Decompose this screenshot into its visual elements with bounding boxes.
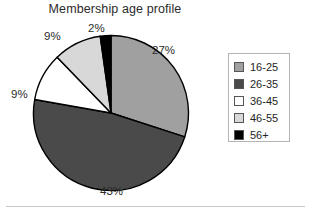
legend-label: 36-45 bbox=[250, 95, 278, 107]
legend-item-56-plus[interactable]: 56+ bbox=[234, 127, 289, 142]
legend-swatch-icon-16-25 bbox=[234, 62, 244, 72]
legend-label: 56+ bbox=[250, 129, 269, 141]
legend-label: 46-55 bbox=[250, 112, 278, 124]
slice-label-16-25: 27% bbox=[152, 44, 175, 57]
slice-label-26-35: 43% bbox=[100, 185, 123, 198]
legend-label: 26-35 bbox=[250, 78, 278, 90]
legend-item-16-25[interactable]: 16-25 bbox=[234, 59, 289, 74]
slice-label-46-55: 9% bbox=[44, 30, 61, 43]
legend-swatch-icon-26-35 bbox=[234, 79, 244, 89]
legend-label: 16-25 bbox=[250, 61, 278, 73]
legend-item-36-45[interactable]: 36-45 bbox=[234, 93, 289, 108]
pie-plot-area: 27% 43% 9% 9% 2% bbox=[0, 0, 225, 213]
legend-item-26-35[interactable]: 26-35 bbox=[234, 76, 289, 91]
legend-swatch-icon-56-plus bbox=[234, 130, 244, 140]
footer-divider bbox=[6, 206, 305, 207]
slice-label-36-45: 9% bbox=[11, 88, 28, 101]
chart-legend: 16-2526-3536-4546-5556+ bbox=[228, 53, 290, 142]
pie-chart-figure: Membership age profile 27% 43% 9% 9% 2% … bbox=[0, 0, 311, 213]
legend-swatch-icon-36-45 bbox=[234, 96, 244, 106]
legend-swatch-icon-46-55 bbox=[234, 113, 244, 123]
pie-svg bbox=[0, 0, 225, 213]
slice-label-56-plus: 2% bbox=[88, 22, 105, 35]
legend-item-46-55[interactable]: 46-55 bbox=[234, 110, 289, 125]
pie-slices bbox=[34, 35, 189, 190]
